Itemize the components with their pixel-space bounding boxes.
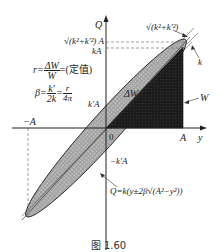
figure-caption: 图 1.60: [0, 237, 217, 252]
delta-w-label: ΔW: [124, 89, 138, 99]
q-formula: Q=k(y±2β√(A²−y²)): [110, 186, 182, 196]
w-label: W: [200, 93, 208, 103]
ka-label: kA: [92, 46, 102, 56]
beta-eq: =: [56, 87, 63, 98]
q-axis-arrow-icon: [104, 15, 109, 22]
sqrt-k-a-label: √(k²+k′²) A: [64, 36, 104, 46]
beta-den1: 2k: [47, 94, 56, 103]
q-axis-label: Q: [95, 20, 102, 30]
leader-arrow-icon: [100, 173, 105, 178]
neg-kprime-a-label: −k′A: [110, 156, 128, 166]
r-equation: r=ΔWW=(定值): [33, 61, 92, 80]
y-axis-arrow-icon: [200, 126, 207, 131]
leader-arrow-icon: [184, 100, 189, 104]
beta-den2: 4π: [63, 94, 72, 103]
major-slope-label: √(k²+k′²): [146, 22, 178, 32]
neg-a-label: −A: [23, 117, 36, 127]
r-denominator: W: [44, 71, 60, 80]
k-slope-label: k: [198, 57, 202, 67]
y-axis-label: y: [198, 133, 202, 143]
beta-lhs: β=: [35, 87, 47, 98]
r-lhs: r=: [33, 64, 44, 75]
beta-equation: β=k′2k=r4π: [35, 84, 72, 103]
a-label: A: [180, 133, 186, 143]
origin-label: 0: [109, 132, 114, 142]
r-rhs: =(定值): [60, 64, 92, 75]
slope-extension-line: [183, 28, 194, 39]
kprime-a-label: k′A: [88, 99, 99, 109]
